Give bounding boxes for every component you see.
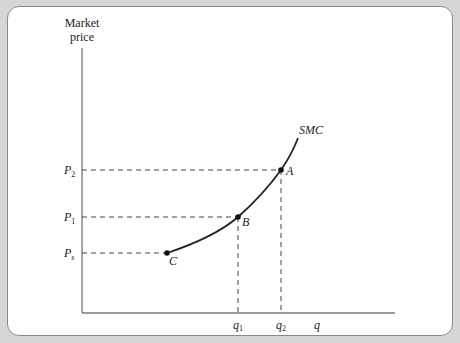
tick-p2: P2 bbox=[63, 163, 75, 179]
point-b bbox=[235, 214, 241, 220]
dashed-guides bbox=[82, 170, 281, 313]
smc-curve bbox=[167, 138, 298, 253]
point-a bbox=[278, 167, 284, 173]
x-axis-title: q bbox=[314, 318, 320, 332]
tick-p1: P1 bbox=[63, 210, 75, 226]
label-smc: SMC bbox=[299, 123, 324, 137]
tick-q1: q1 bbox=[233, 318, 243, 333]
tick-ps: Ps bbox=[63, 246, 74, 262]
y-axis-title-line1: Market bbox=[65, 16, 100, 30]
label-a: A bbox=[285, 164, 294, 178]
label-c: C bbox=[169, 254, 178, 268]
tick-q2: q2 bbox=[276, 318, 286, 333]
label-b: B bbox=[242, 215, 250, 229]
y-axis-title-line2: price bbox=[70, 30, 94, 44]
supply-curve-chart: Market price A B C SMC P2 P1 Ps q1 q2 q bbox=[0, 0, 460, 343]
